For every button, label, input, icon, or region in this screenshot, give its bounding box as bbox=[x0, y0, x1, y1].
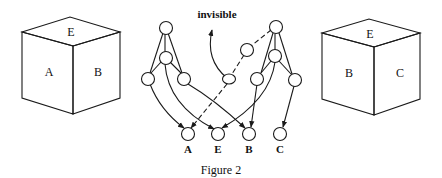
output-label-b: B bbox=[245, 143, 253, 155]
output-node-a bbox=[182, 128, 195, 141]
output-node-b bbox=[243, 128, 256, 141]
right-tree-mid-node bbox=[269, 50, 282, 63]
output-label-c: C bbox=[276, 143, 284, 155]
invisible-node bbox=[223, 74, 236, 84]
output-node-c bbox=[274, 128, 287, 141]
left-cube-top-label: E bbox=[67, 25, 74, 39]
right-tree-right-node bbox=[289, 74, 302, 87]
left-cube-right-label: B bbox=[94, 65, 102, 79]
right-cube-top-label: E bbox=[366, 27, 373, 41]
figure-canvas: E A B E B C bbox=[0, 0, 442, 178]
right-cube: E B C bbox=[322, 19, 420, 115]
output-label-e: E bbox=[214, 143, 221, 155]
left-cube: E A B bbox=[22, 17, 120, 114]
left-cube-left-label: A bbox=[45, 65, 54, 79]
left-tree-right-node bbox=[178, 73, 191, 86]
invisible-annotation: invisible bbox=[197, 8, 236, 20]
left-tree-mid-node bbox=[160, 52, 173, 65]
right-tree-root-node bbox=[270, 21, 283, 34]
output-label-a: A bbox=[184, 143, 192, 155]
output-node-e bbox=[212, 128, 225, 141]
right-tree-left-node bbox=[251, 73, 264, 86]
right-cube-left-label: B bbox=[345, 66, 353, 80]
dashed-hidden-node bbox=[241, 44, 254, 57]
invisible-pointer-arrow bbox=[210, 30, 227, 78]
right-cube-right-label: C bbox=[396, 66, 404, 80]
figure-caption: Figure 2 bbox=[201, 163, 241, 177]
left-tree-left-node bbox=[142, 73, 155, 86]
left-tree-root-node bbox=[160, 22, 173, 35]
